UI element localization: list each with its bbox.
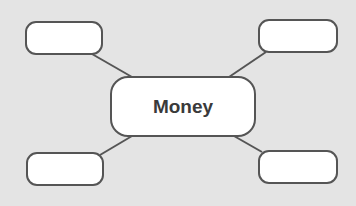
branch-box-top-right[interactable] (258, 19, 338, 53)
connector-bottom-left (100, 136, 132, 155)
center-node[interactable]: Money (110, 76, 256, 137)
branch-box-bottom-right[interactable] (258, 150, 338, 184)
center-label: Money (153, 96, 213, 118)
branch-box-bottom-left[interactable] (26, 152, 104, 186)
connector-top-right (229, 52, 266, 77)
connector-bottom-right (234, 136, 262, 152)
mind-map-diagram: Money (0, 0, 356, 206)
branch-box-top-left[interactable] (25, 21, 103, 55)
connector-top-left (92, 54, 132, 77)
